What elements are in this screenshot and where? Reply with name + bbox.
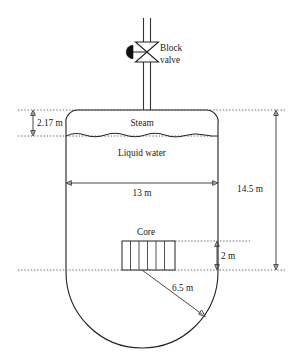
- core-label: Core: [137, 227, 155, 237]
- steam-region-label: Steam: [130, 118, 154, 128]
- block-valve-label-line2: valve: [160, 55, 180, 65]
- block-valve-icon[interactable]: [126, 42, 158, 62]
- core-assembly: [122, 241, 175, 270]
- core-height-dimension-label: 2 m: [221, 251, 236, 261]
- reactor-vessel-diagram: Block valve Steam Liquid water 2.17 m: [0, 0, 297, 360]
- steam-height-dimension: 2.17 m: [31, 110, 64, 136]
- valve-actuator-icon: [126, 45, 133, 59]
- sphere-radius-dimension-label: 6.5 m: [172, 283, 194, 293]
- block-valve-label-line1: Block: [160, 43, 183, 53]
- liquid-water-region-label: Liquid water: [118, 148, 167, 158]
- vessel-diameter-dimension: 13 m: [66, 181, 218, 198]
- vessel-height-dimension: 14.5 m: [237, 110, 278, 270]
- diagram-canvas: Block valve Steam Liquid water 2.17 m: [0, 0, 297, 360]
- steam-height-dimension-label: 2.17 m: [37, 118, 64, 128]
- sphere-radius-dimension: 6.5 m: [142, 270, 205, 317]
- steam-pipe-icon: [144, 18, 151, 110]
- vessel-height-dimension-label: 14.5 m: [237, 184, 264, 194]
- vessel-diameter-dimension-label: 13 m: [133, 188, 153, 198]
